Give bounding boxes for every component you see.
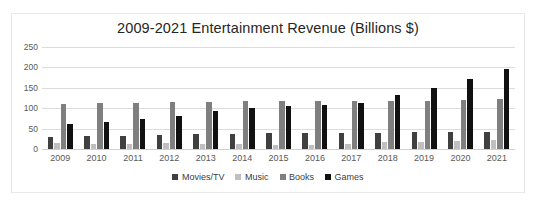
bar-group [115,47,151,149]
bar [61,104,67,149]
bar [200,144,206,149]
bar [358,103,364,150]
bar [97,103,103,149]
bar [236,144,242,149]
bar [170,102,176,149]
bar [133,103,139,149]
bar [67,124,73,149]
legend-swatch-icon [172,174,178,180]
y-axis-label: 250 [24,42,38,52]
bar [127,144,133,149]
bar [418,142,424,149]
bar [484,132,490,149]
bar [448,132,454,149]
chart-container: 2009-2021 Entertainment Revenue (Billion… [11,13,525,193]
bar-group [42,47,78,149]
bar [425,101,431,149]
bar [412,132,418,149]
bar [48,137,54,149]
bar [375,133,381,149]
bar [491,140,497,149]
x-axis-label: 2015 [260,153,296,163]
bar-groups [42,47,515,149]
legend-label: Music [245,172,269,182]
bar [454,141,460,149]
x-axis-label: 2010 [78,153,114,163]
bar [315,101,321,149]
y-axis-label: 0 [33,144,38,154]
bar-group [260,47,296,149]
bar [104,122,110,149]
bar [163,143,169,149]
legend-item[interactable]: Games [325,172,364,182]
bar [352,101,358,149]
bar [54,143,60,149]
bar [206,102,212,149]
legend-label: Games [335,172,364,182]
bar [249,108,255,149]
legend-item[interactable]: Music [235,172,268,182]
legend-swatch-icon [280,174,286,180]
y-axis-label: 150 [24,83,38,93]
bar [243,101,249,149]
bar-group [442,47,478,149]
bar [193,134,199,149]
bar [497,99,503,149]
legend-item[interactable]: Movies/TV [172,172,224,182]
x-axis-label: 2013 [188,153,224,163]
legend-swatch-icon [325,174,331,180]
bar [345,144,351,149]
y-axis-label: 100 [24,103,38,113]
x-axis-label: 2018 [370,153,406,163]
legend-swatch-icon [235,174,241,180]
bar [266,133,272,149]
bar-group [78,47,114,149]
bar [504,69,510,149]
bar [382,142,388,149]
x-axis-label: 2017 [333,153,369,163]
bar [322,105,328,149]
bar [431,88,437,149]
bar [273,145,279,149]
bar [339,133,345,149]
bar-group [224,47,260,149]
bar [157,135,163,149]
bar [279,101,285,149]
bar-group [297,47,333,149]
bar [213,111,219,149]
x-axis-label: 2014 [224,153,260,163]
bar-group [479,47,515,149]
x-axis-label: 2011 [115,153,151,163]
bar [302,133,308,149]
legend-label: Books [289,172,314,182]
bar [230,134,236,150]
bar-group [406,47,442,149]
gridline [42,149,515,150]
legend-item[interactable]: Books [280,172,315,182]
bar [388,101,394,149]
bar [467,79,473,149]
chart-legend: Movies/TVMusicBooksGames [12,172,524,182]
bar [91,144,97,149]
bar-group [370,47,406,149]
x-axis-label: 2016 [297,153,333,163]
bar-group [333,47,369,149]
plot-area: 050100150200250 [42,47,515,149]
bar [286,106,292,149]
bar [140,119,146,149]
bar-group [188,47,224,149]
x-axis-label: 2021 [479,153,515,163]
y-axis-label: 200 [24,62,38,72]
x-axis-label: 2020 [442,153,478,163]
x-axis-label: 2019 [406,153,442,163]
bar [395,95,401,149]
bar [176,116,182,149]
legend-label: Movies/TV [182,172,225,182]
x-axis-ticks: 2009201020112012201320142015201620172018… [42,153,515,163]
bar-group [151,47,187,149]
bar [120,136,126,149]
bar [84,136,90,149]
bar [309,145,315,149]
x-axis-label: 2009 [42,153,78,163]
y-axis-label: 50 [29,124,38,134]
